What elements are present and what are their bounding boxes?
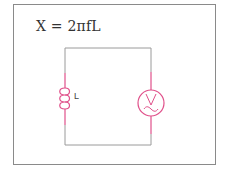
ac-source-icon [138, 72, 164, 134]
circuit-diagram [0, 0, 228, 174]
inductor-icon [60, 73, 70, 125]
inductor-label: L [74, 91, 79, 101]
